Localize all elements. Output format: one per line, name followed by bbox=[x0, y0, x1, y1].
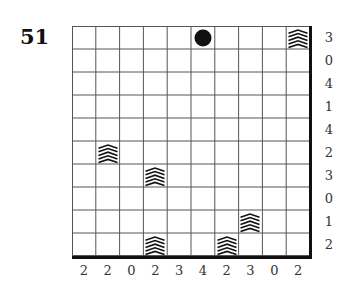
column-clue: 2 bbox=[215, 263, 239, 279]
grid-cell-item[interactable] bbox=[191, 26, 215, 49]
row-clue: 3 bbox=[322, 164, 336, 187]
column-clue: 2 bbox=[72, 263, 96, 279]
grid-cell-item[interactable] bbox=[286, 26, 310, 49]
column-clue: 0 bbox=[120, 263, 144, 279]
column-clue: 3 bbox=[167, 263, 191, 279]
puzzle-number: 51 bbox=[20, 26, 49, 47]
grid-cell-item[interactable] bbox=[143, 233, 167, 256]
chevron-stack-icon bbox=[144, 164, 166, 187]
row-clue: 4 bbox=[322, 118, 336, 141]
chevron-stack-icon bbox=[97, 141, 119, 164]
row-clue: 4 bbox=[322, 72, 336, 95]
column-clue: 3 bbox=[239, 263, 263, 279]
grid-cell-item[interactable] bbox=[143, 164, 167, 187]
chevron-stack-icon bbox=[287, 26, 309, 49]
row-clue: 1 bbox=[322, 210, 336, 233]
row-clue: 1 bbox=[322, 95, 336, 118]
column-clue: 4 bbox=[191, 263, 215, 279]
chevron-stack-icon bbox=[216, 233, 238, 256]
row-clue: 2 bbox=[322, 141, 336, 164]
chevron-stack-icon bbox=[144, 233, 166, 256]
grid-frame-right bbox=[309, 26, 312, 259]
column-clue: 0 bbox=[262, 263, 286, 279]
row-clue: 0 bbox=[322, 187, 336, 210]
row-clue: 0 bbox=[322, 49, 336, 72]
filled-circle-icon bbox=[193, 28, 213, 48]
column-clue: 2 bbox=[143, 263, 167, 279]
grid-cell-item[interactable] bbox=[215, 233, 239, 256]
grid-cell-item[interactable] bbox=[239, 210, 263, 233]
puzzle-grid[interactable] bbox=[72, 26, 310, 256]
grid-cell-item[interactable] bbox=[96, 141, 120, 164]
row-clue: 3 bbox=[322, 26, 336, 49]
chevron-stack-icon bbox=[239, 210, 261, 233]
column-clue: 2 bbox=[96, 263, 120, 279]
column-clue: 2 bbox=[286, 263, 310, 279]
grid-frame-bottom bbox=[72, 256, 312, 259]
row-clue: 2 bbox=[322, 233, 336, 256]
